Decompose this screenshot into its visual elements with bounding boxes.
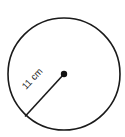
circle-diagram: 11 cm: [0, 0, 125, 137]
center-point: [61, 71, 67, 77]
radius-label: 11 cm: [19, 65, 44, 91]
